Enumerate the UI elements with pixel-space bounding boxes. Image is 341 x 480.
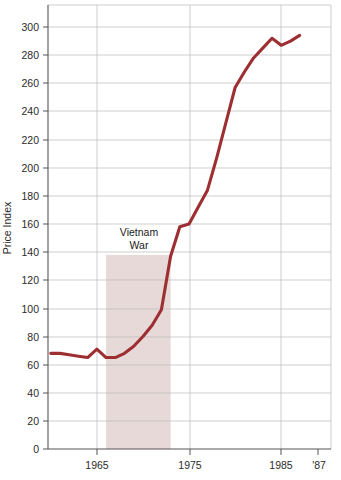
ytick-label-200: 200 — [21, 162, 39, 174]
x-axis-tick-labels: 1965 1975 1985 '87 — [85, 459, 326, 471]
ytick-label-60: 60 — [27, 359, 39, 371]
ytick-label-100: 100 — [21, 303, 39, 315]
ytick-label-20: 20 — [27, 415, 39, 427]
ytick-label-0: 0 — [33, 443, 39, 455]
xtick-label-1975: 1975 — [178, 459, 202, 471]
ytick-label-280: 280 — [21, 49, 39, 61]
y-axis-ticks — [43, 27, 48, 449]
x-axis-ticks — [97, 449, 318, 455]
xtick-label-1965: 1965 — [85, 459, 109, 471]
ytick-label-140: 140 — [21, 246, 39, 258]
ytick-label-80: 80 — [27, 331, 39, 343]
y-axis-title: Price Index — [1, 201, 13, 254]
ytick-label-120: 120 — [21, 274, 39, 286]
plot-background — [48, 5, 331, 449]
price-index-chart: 300 280 260 240 220 200 180 160 140 120 … — [0, 0, 341, 480]
vietnam-war-label-line2: War — [130, 239, 149, 251]
ytick-label-160: 160 — [21, 218, 39, 230]
vietnam-war-shaded-region — [106, 255, 171, 449]
xtick-label-1985: 1985 — [269, 459, 293, 471]
ytick-label-260: 260 — [21, 77, 39, 89]
ytick-label-180: 180 — [21, 190, 39, 202]
ytick-label-300: 300 — [21, 21, 39, 33]
y-axis-tick-labels: 300 280 260 240 220 200 180 160 140 120 … — [21, 21, 39, 455]
chart-canvas: 300 280 260 240 220 200 180 160 140 120 … — [0, 0, 341, 480]
ytick-label-240: 240 — [21, 105, 39, 117]
vietnam-war-label-line1: Vietnam — [120, 226, 159, 238]
ytick-label-40: 40 — [27, 387, 39, 399]
ytick-label-220: 220 — [21, 134, 39, 146]
xtick-label-1987: '87 — [312, 459, 326, 471]
